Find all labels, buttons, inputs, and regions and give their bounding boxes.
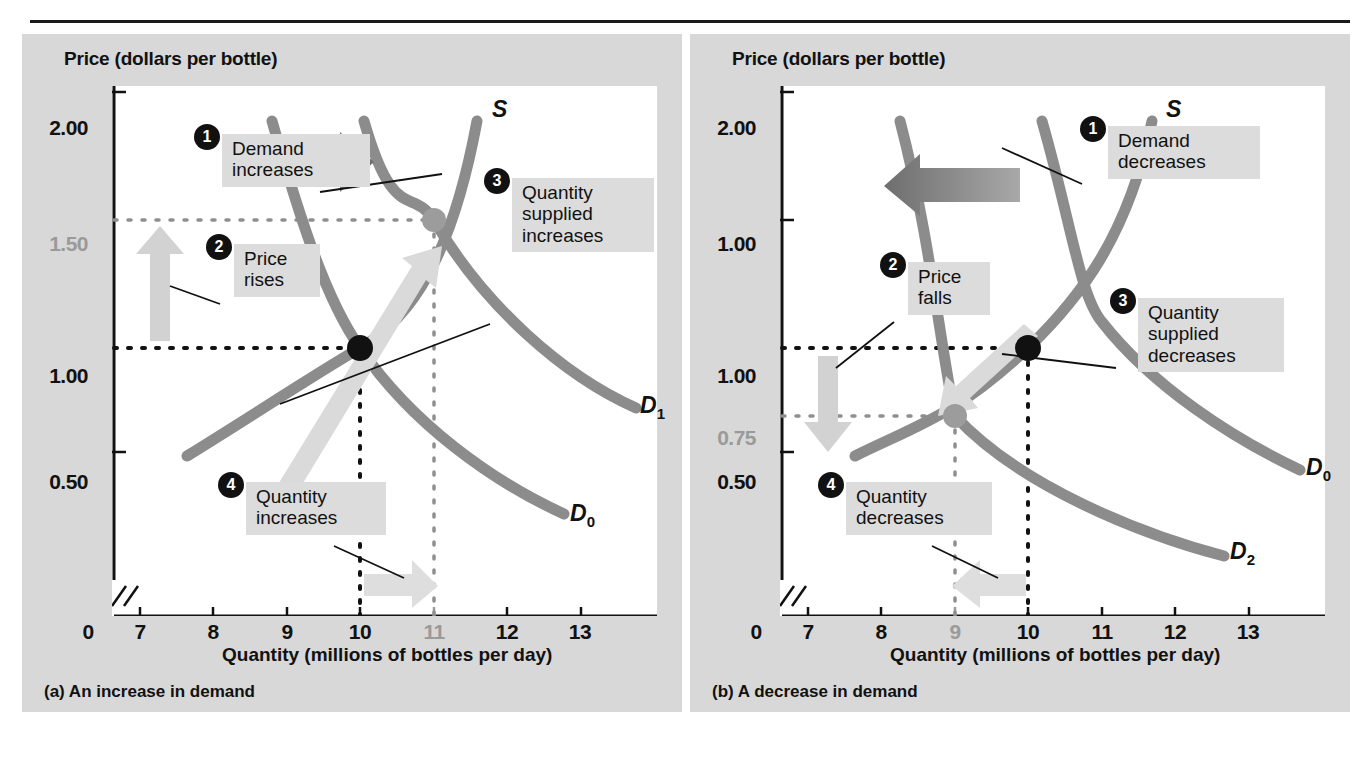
panel-a-callout-3-bullet: 3 bbox=[484, 168, 510, 194]
panel-b-decrease-in-demand: Price (dollars per bottle) 2.00 1.00 1.0… bbox=[690, 34, 1350, 712]
panel-b-xtick-10: 10 bbox=[1008, 620, 1048, 644]
panel-b-ytick-1-00: 1.00 bbox=[690, 364, 756, 388]
panel-a-ytick-0-50: 0.50 bbox=[22, 470, 88, 494]
panel-b-axis-break-2 bbox=[792, 586, 806, 606]
panel-a-increase-in-demand: Price (dollars per bottle) 2.00 1.50 1.0… bbox=[22, 34, 682, 712]
panel-a-callout-2-bullet: 2 bbox=[206, 234, 232, 260]
panel-b-xtick-0: 0 bbox=[736, 620, 776, 644]
panel-b-callout-4-bullet: 4 bbox=[818, 472, 844, 498]
panel-a-equilibrium-initial bbox=[347, 335, 373, 361]
panel-a-ytick-1-00: 1.00 bbox=[22, 364, 88, 388]
panel-b-callout-1-bullet: 1 bbox=[1080, 116, 1106, 142]
panel-b-xtick-12: 12 bbox=[1155, 620, 1195, 644]
panel-b-ytick-0-50: 0.50 bbox=[690, 470, 756, 494]
panel-a-callout-1-text: Demand increases bbox=[222, 134, 370, 187]
panel-a-xtick-8: 8 bbox=[193, 620, 233, 644]
panel-b-label-s: S bbox=[1166, 96, 1181, 123]
panel-a-xtick-11: 11 bbox=[414, 620, 454, 644]
panel-a-callout-3-text: Quantity supplied increases bbox=[512, 178, 654, 252]
panel-b-leader-4 bbox=[932, 546, 998, 578]
panel-b-y-axis-title: Price (dollars per bottle) bbox=[732, 48, 945, 70]
panel-a-demand-curve-d1 bbox=[364, 121, 636, 408]
panel-b-equilibrium-new bbox=[943, 404, 967, 428]
panel-a-callout-4-text: Quantity increases bbox=[246, 482, 386, 535]
panel-a-caption: (a) An increase in demand bbox=[44, 682, 255, 702]
panel-a-svg bbox=[112, 86, 657, 616]
panel-a-price-rises-arrow bbox=[136, 226, 184, 341]
panel-a-xtick-13: 13 bbox=[560, 620, 600, 644]
panel-a-axis-break-1 bbox=[112, 586, 126, 606]
panel-a-ytick-1-50: 1.50 bbox=[22, 232, 88, 256]
panel-a-callout-1-bullet: 1 bbox=[194, 124, 220, 150]
figure-root: Price (dollars per bottle) 2.00 1.50 1.0… bbox=[0, 0, 1370, 760]
panel-b-xtick-11: 11 bbox=[1082, 620, 1122, 644]
panel-a-leader-2 bbox=[170, 286, 220, 304]
panel-a-plot-area: S D0 D1 1 Demand increases 2 Price rises… bbox=[112, 86, 657, 616]
panel-b-axis-break-1 bbox=[780, 586, 794, 606]
panel-b-xtick-13: 13 bbox=[1228, 620, 1268, 644]
panel-b-price-falls-arrow bbox=[804, 356, 852, 452]
panel-b-xtick-9: 9 bbox=[935, 620, 975, 644]
panel-a-x-axis-title: Quantity (millions of bottles per day) bbox=[222, 644, 552, 666]
panel-a-quantity-increases-arrow bbox=[364, 560, 438, 608]
panel-b-callout-3-bullet: 3 bbox=[1110, 288, 1136, 314]
panel-b-demand-shift-arrow bbox=[884, 154, 1020, 216]
panel-b-x-axis-title: Quantity (millions of bottles per day) bbox=[890, 644, 1220, 666]
panel-b-ytick-2-00: 2.00 bbox=[690, 116, 756, 140]
panel-a-xtick-9: 9 bbox=[267, 620, 307, 644]
panel-b-xtick-7: 7 bbox=[788, 620, 828, 644]
panel-a-label-d0: D0 bbox=[570, 500, 595, 530]
panel-a-leader-4 bbox=[334, 546, 404, 578]
panel-a-xtick-12: 12 bbox=[487, 620, 527, 644]
panel-a-y-axis-title: Price (dollars per bottle) bbox=[64, 48, 277, 70]
panel-a-label-d1: D1 bbox=[640, 392, 665, 422]
panel-b-plot-area: S D0 D2 1 Demand decreases 2 Price falls… bbox=[780, 86, 1325, 616]
panel-b-quantity-decreases-arrow bbox=[952, 560, 1026, 608]
panel-b-callout-4-text: Quantity decreases bbox=[846, 482, 992, 535]
panel-b-callout-1-text: Demand decreases bbox=[1108, 126, 1260, 179]
panel-a-xtick-7: 7 bbox=[120, 620, 160, 644]
panel-a-axis-break-2 bbox=[124, 586, 138, 606]
panel-b-label-d2: D2 bbox=[1230, 538, 1255, 568]
panel-b-leader-2 bbox=[836, 322, 894, 368]
panel-a-xtick-0: 0 bbox=[68, 620, 108, 644]
panel-a-equilibrium-new bbox=[422, 208, 446, 232]
panel-b-callout-2-text: Price falls bbox=[908, 262, 990, 315]
panel-a-callout-2-text: Price rises bbox=[234, 244, 320, 297]
panel-b-ytick-0-75: 0.75 bbox=[690, 426, 756, 450]
panel-b-callout-2-bullet: 2 bbox=[880, 252, 906, 278]
panel-a-xtick-10: 10 bbox=[340, 620, 380, 644]
panel-b-callout-3-text: Quantity supplied decreases bbox=[1138, 298, 1284, 372]
panel-b-caption: (b) A decrease in demand bbox=[712, 682, 918, 702]
panel-b-ytick-upper-1-00: 1.00 bbox=[690, 232, 756, 256]
top-divider-rule bbox=[30, 20, 1350, 23]
panel-a-callout-4-bullet: 4 bbox=[218, 472, 244, 498]
panel-b-xtick-8: 8 bbox=[861, 620, 901, 644]
panel-a-label-s: S bbox=[492, 96, 507, 123]
panel-a-ytick-2-00: 2.00 bbox=[22, 116, 88, 140]
panel-b-label-d0: D0 bbox=[1306, 454, 1331, 484]
